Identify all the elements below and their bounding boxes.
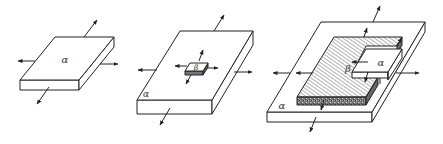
plate-front-face [20,80,79,90]
plate-front-face [267,112,372,122]
label-beta-panel-2: β [193,63,199,72]
label-alpha-panel-3: α [279,100,286,111]
arrow-up-right [373,6,380,22]
arrow-up-right [84,20,97,37]
beta-front-edge [297,97,366,105]
arrow-up-right [214,15,224,31]
phase-transformation-diagram: α β α [0,0,443,144]
label-alpha-step-panel-3: α [378,57,385,68]
plate-front-face [137,100,212,114]
label-beta-panel-3: β [344,63,351,74]
alpha-step-front [352,72,388,78]
label-alpha-panel-1: α [62,54,69,65]
label-alpha-panel-2: α [143,89,149,99]
